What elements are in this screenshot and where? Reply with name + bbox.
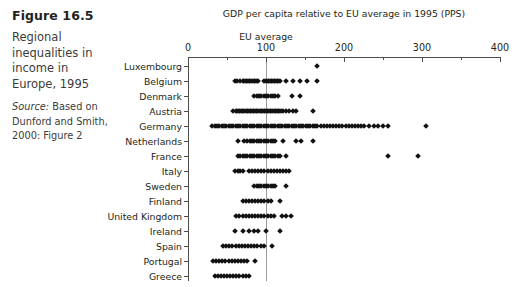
data-point: [310, 138, 316, 144]
data-point: [283, 183, 289, 189]
x-tick-label: 0: [185, 42, 191, 53]
axis-title: GDP per capita relative to EU average in…: [188, 8, 500, 19]
data-point: [310, 108, 316, 114]
x-tick-major: [344, 57, 345, 62]
data-point: [277, 198, 283, 204]
y-tick: [184, 66, 188, 67]
x-tick-minor: [461, 57, 462, 60]
x-tick-major: [188, 57, 189, 62]
data-point: [244, 258, 250, 264]
y-tick: [184, 156, 188, 157]
data-point: [277, 228, 283, 234]
y-axis-line: [188, 57, 189, 281]
x-tick-minor: [305, 57, 306, 60]
y-tick: [184, 186, 188, 187]
data-point: [280, 138, 286, 144]
category-label-spain: Spain: [156, 241, 182, 252]
y-tick: [184, 96, 188, 97]
y-tick: [184, 276, 188, 277]
data-point: [304, 78, 310, 84]
category-label-greece: Greece: [149, 271, 182, 282]
data-point: [315, 63, 321, 69]
data-point: [283, 78, 289, 84]
data-point: [283, 153, 289, 159]
x-tick-label: 300: [413, 42, 431, 53]
data-point: [255, 78, 261, 84]
data-point: [232, 228, 238, 234]
x-tick-major: [266, 57, 267, 62]
y-tick: [184, 261, 188, 262]
data-point: [269, 243, 275, 249]
data-point: [273, 183, 279, 189]
data-point: [297, 78, 303, 84]
category-label-luxembourg: Luxembourg: [124, 61, 182, 72]
data-point: [290, 78, 296, 84]
scatter-plot: GDP per capita relative to EU average in…: [0, 0, 524, 287]
category-label-france: France: [151, 151, 182, 162]
y-tick: [184, 231, 188, 232]
data-point: [235, 138, 241, 144]
data-point: [415, 153, 421, 159]
x-tick-minor: [383, 57, 384, 60]
x-tick-label: 200: [335, 42, 353, 53]
category-label-belgium: Belgium: [144, 76, 182, 87]
data-point: [385, 123, 391, 129]
data-point: [289, 93, 295, 99]
y-tick: [184, 201, 188, 202]
x-tick-label: 100: [257, 42, 275, 53]
y-tick: [184, 111, 188, 112]
eu-average-label: EU average: [239, 31, 293, 42]
data-point: [298, 138, 304, 144]
data-point: [287, 168, 293, 174]
x-tick-major: [500, 57, 501, 62]
figure-container: Figure 16.5 Regional inequalities in inc…: [0, 0, 524, 287]
x-tick-major: [422, 57, 423, 62]
y-tick: [184, 81, 188, 82]
x-tick-minor: [227, 57, 228, 60]
category-label-italy: Italy: [162, 166, 182, 177]
data-point: [385, 153, 391, 159]
y-tick: [184, 246, 188, 247]
data-point: [297, 93, 303, 99]
y-tick: [184, 126, 188, 127]
data-point: [315, 78, 321, 84]
data-point: [288, 213, 294, 219]
category-label-finland: Finland: [149, 196, 182, 207]
category-label-portugal: Portugal: [143, 256, 182, 267]
data-point: [423, 123, 429, 129]
data-point: [255, 228, 261, 234]
category-label-united-kingdom: United Kingdom: [107, 211, 182, 222]
data-point: [240, 228, 246, 234]
category-label-austria: Austria: [149, 106, 182, 117]
y-tick: [184, 141, 188, 142]
data-point: [263, 228, 269, 234]
y-tick: [184, 216, 188, 217]
x-tick-label: 400: [491, 42, 509, 53]
category-label-netherlands: Netherlands: [125, 136, 182, 147]
category-label-ireland: Ireland: [150, 226, 182, 237]
y-tick: [184, 171, 188, 172]
data-point: [273, 138, 279, 144]
category-label-denmark: Denmark: [139, 91, 182, 102]
data-point: [252, 258, 258, 264]
category-label-sweden: Sweden: [145, 181, 182, 192]
category-label-germany: Germany: [139, 121, 182, 132]
